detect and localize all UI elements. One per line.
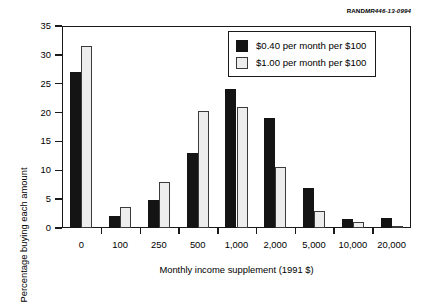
- bar: [109, 216, 120, 228]
- x-axis-title: Monthly income supplement (1991 $): [62, 264, 411, 275]
- bar: [148, 200, 159, 228]
- chart-legend: $0.40 per month per $100$1.00 per month …: [228, 31, 376, 77]
- bar: [303, 188, 314, 228]
- bar: [187, 153, 198, 228]
- y-axis-tick-mark: [55, 170, 62, 172]
- y-axis-tick-mark: [55, 227, 62, 229]
- x-axis-tick-mark: [140, 228, 142, 234]
- bar: [120, 207, 131, 228]
- rand-logo-text: RAND: [347, 7, 365, 14]
- y-axis-tick-mark: [55, 198, 62, 200]
- y-axis-tick-mark: [55, 54, 62, 56]
- y-axis-tick-label: 15: [11, 135, 51, 147]
- y-axis-tick-mark: [55, 83, 62, 85]
- bar: [275, 167, 286, 228]
- source-credit: RANDMR446-13-0994: [347, 8, 411, 14]
- x-axis-tick-mark: [101, 228, 103, 234]
- y-axis-tick-label: 10: [11, 164, 51, 176]
- bar: [81, 46, 92, 228]
- legend-label: $0.40 per month per $100: [256, 40, 366, 52]
- y-axis-tick-mark: [55, 141, 62, 143]
- bar: [225, 89, 236, 228]
- bar: [381, 218, 392, 228]
- bar: [342, 219, 353, 228]
- bar: [264, 118, 275, 228]
- rand-document-id: MR446-13-0994: [365, 7, 411, 14]
- bar: [353, 222, 364, 228]
- y-axis-tick-label: 35: [11, 20, 51, 32]
- y-axis-tick-mark: [55, 112, 62, 114]
- legend-swatch: [236, 40, 248, 52]
- bar: [70, 72, 81, 228]
- bar: [198, 111, 209, 228]
- x-axis-tick-mark: [333, 228, 335, 234]
- bar: [314, 211, 325, 228]
- y-axis-tick-mark: [55, 25, 62, 27]
- y-axis-tick-label: 5: [11, 193, 51, 205]
- x-axis-tick-mark: [178, 228, 180, 234]
- bar: [392, 226, 403, 228]
- legend-item: $0.40 per month per $100: [236, 37, 366, 54]
- bar: [237, 107, 248, 228]
- x-axis-tick-mark: [256, 228, 258, 234]
- x-axis-tick-label: 20,000: [362, 239, 422, 251]
- x-axis-tick-mark: [295, 228, 297, 234]
- y-axis-tick-label: 25: [11, 78, 51, 90]
- legend-item: $1.00 per month per $100: [236, 54, 366, 71]
- legend-swatch: [236, 57, 248, 69]
- x-axis-tick-mark: [372, 228, 374, 234]
- x-axis-tick-mark: [217, 228, 219, 234]
- legend-label: $1.00 per month per $100: [256, 57, 366, 69]
- y-axis-tick-label: 20: [11, 107, 51, 119]
- y-axis-tick-label: 0: [11, 222, 51, 234]
- y-axis-tick-label: 30: [11, 49, 51, 61]
- bar: [159, 182, 170, 228]
